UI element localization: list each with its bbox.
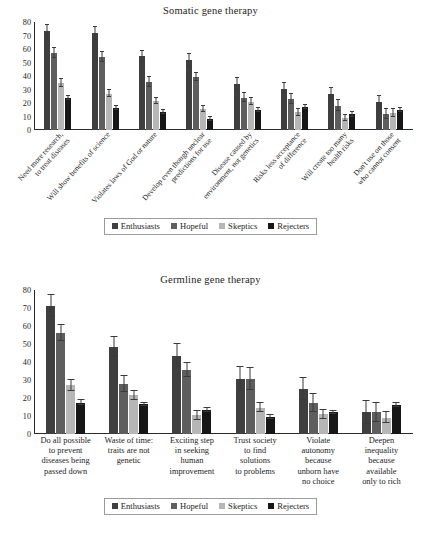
x-tick-label-line: to find	[225, 446, 286, 456]
error-bar-cap-top	[300, 377, 307, 378]
bar-slot	[362, 290, 371, 434]
bar-hopeful[interactable]	[383, 114, 389, 130]
legend-label: Skeptics	[228, 221, 257, 231]
legend-item-rejecters[interactable]: Rejecters	[268, 501, 309, 511]
error-bar-cap-top	[329, 87, 333, 88]
bar-rejecters[interactable]	[397, 110, 403, 130]
error-bar-cap-top	[201, 105, 205, 106]
error-bar-cap-top	[363, 400, 370, 401]
bar-skeptics[interactable]	[153, 101, 159, 130]
bar-enthusiasts[interactable]	[186, 60, 192, 130]
bar-hopeful[interactable]	[56, 333, 65, 434]
legend-item-rejecters[interactable]: Rejecters	[268, 221, 309, 231]
error-bar-cap-bottom	[183, 376, 190, 377]
bar-rejecters[interactable]	[329, 412, 338, 434]
bar-rejecters[interactable]	[113, 108, 119, 130]
bar-slot	[172, 290, 181, 434]
bar-enthusiasts[interactable]	[299, 389, 308, 434]
bar-slot	[66, 290, 75, 434]
legend-item-hopeful[interactable]: Hopeful	[171, 501, 208, 511]
bar-skeptics[interactable]	[390, 113, 396, 130]
bar-skeptics[interactable]	[129, 395, 138, 434]
bar-hopeful[interactable]	[246, 379, 255, 434]
error-bar-cap-top	[183, 362, 190, 363]
legend-item-hopeful[interactable]: Hopeful	[171, 221, 208, 231]
chart-title-somatic: Somatic gene therapy	[0, 0, 421, 16]
bar-rejecters[interactable]	[160, 112, 166, 130]
bar-enthusiasts[interactable]	[44, 31, 50, 130]
bar-enthusiasts[interactable]	[46, 306, 55, 434]
error-bar-cap-top	[154, 97, 158, 98]
bar-enthusiasts[interactable]	[92, 33, 98, 130]
error-bar-cap-bottom	[336, 110, 340, 111]
error-bar-cap-top	[110, 336, 117, 337]
bar-rejecters[interactable]	[266, 417, 275, 434]
error-bar-cap-bottom	[114, 109, 118, 110]
bar-group	[224, 290, 287, 434]
bar-hopeful[interactable]	[119, 384, 128, 434]
bar-rejecters[interactable]	[349, 114, 355, 130]
legend-swatch-icon	[219, 223, 225, 229]
bar-hopeful[interactable]	[182, 370, 191, 434]
bar-skeptics[interactable]	[342, 118, 348, 130]
legend-swatch-icon	[171, 223, 177, 229]
bar-rejecters[interactable]	[207, 119, 213, 130]
bar-enthusiasts[interactable]	[376, 102, 382, 130]
bar-enthusiasts[interactable]	[109, 347, 118, 434]
bar-skeptics[interactable]	[248, 102, 254, 130]
bar-rejecters[interactable]	[76, 403, 85, 435]
bar-slot	[109, 290, 118, 434]
legend-item-skeptics[interactable]: Skeptics	[219, 501, 257, 511]
bar-enthusiasts[interactable]	[328, 94, 334, 130]
legend-item-skeptics[interactable]: Skeptics	[219, 221, 257, 231]
bar-hopeful[interactable]	[51, 53, 57, 130]
bar-rejecters[interactable]	[255, 110, 261, 130]
bar-skeptics[interactable]	[106, 94, 112, 130]
bar-hopeful[interactable]	[146, 82, 152, 130]
bar-skeptics[interactable]	[66, 385, 75, 434]
bar-rejecters[interactable]	[302, 107, 308, 130]
bar-enthusiasts[interactable]	[281, 89, 287, 130]
bar-enthusiasts[interactable]	[362, 412, 371, 434]
bar-enthusiasts[interactable]	[236, 379, 245, 434]
x-tick-label-line: to problems	[225, 467, 286, 477]
error-bar-cap-bottom	[77, 404, 84, 405]
bar-slot	[139, 290, 148, 434]
bar-skeptics[interactable]	[192, 415, 201, 434]
bar-hopeful[interactable]	[309, 403, 318, 434]
bar-slot	[234, 22, 240, 130]
bar-hopeful[interactable]	[335, 106, 341, 130]
bar-slot	[200, 22, 206, 130]
bar-slot	[288, 22, 294, 130]
bar-skeptics[interactable]	[319, 414, 328, 434]
bar-hopeful[interactable]	[99, 57, 105, 130]
bar-skeptics[interactable]	[58, 83, 64, 130]
bar-slot	[397, 22, 403, 130]
bar-hopeful[interactable]	[241, 98, 247, 130]
bar-rejecters[interactable]	[392, 405, 401, 434]
legend-item-enthusiasts[interactable]: Enthusiasts	[112, 501, 160, 511]
bar-slot	[119, 290, 128, 434]
bar-skeptics[interactable]	[295, 112, 301, 130]
error-bar-stem	[113, 337, 114, 357]
bar-hopeful[interactable]	[372, 412, 381, 434]
bar-enthusiasts[interactable]	[172, 356, 181, 434]
bar-slot	[319, 290, 328, 434]
bar-skeptics[interactable]	[200, 109, 206, 130]
bar-rejecters[interactable]	[139, 404, 148, 434]
legend-label: Rejecters	[277, 221, 309, 231]
bar-rejecters[interactable]	[202, 410, 211, 434]
bar-hopeful[interactable]	[288, 99, 294, 130]
bar-skeptics[interactable]	[382, 418, 391, 434]
error-bar-stem	[376, 403, 377, 423]
bar-skeptics[interactable]	[256, 408, 265, 434]
error-bar-cap-top	[257, 402, 264, 403]
legend-swatch-icon	[268, 223, 274, 229]
error-bar-cap-top	[350, 111, 354, 112]
bar-rejecters[interactable]	[65, 98, 71, 130]
bar-slot	[248, 22, 254, 130]
legend-item-enthusiasts[interactable]: Enthusiasts	[112, 221, 160, 231]
bar-enthusiasts[interactable]	[234, 84, 240, 130]
bar-hopeful[interactable]	[193, 77, 199, 130]
bar-enthusiasts[interactable]	[139, 56, 145, 130]
